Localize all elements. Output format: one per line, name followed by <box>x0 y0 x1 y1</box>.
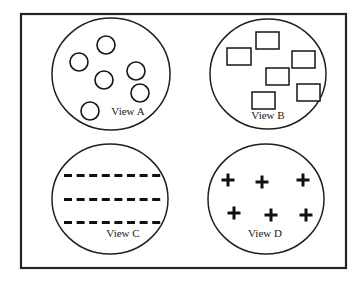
dash-marker-r1-8 <box>152 174 160 177</box>
dash-marker-r2-5 <box>114 198 122 201</box>
dash-marker-r1-3 <box>89 174 97 177</box>
view-b-label: View B <box>251 109 284 121</box>
dash-marker-r3-3 <box>89 221 97 224</box>
dash-marker-r3-2 <box>77 221 85 224</box>
dash-marker-r2-4 <box>102 198 110 201</box>
circle-marker-3 <box>127 62 145 80</box>
rectangle-marker-3 <box>292 51 315 68</box>
dash-marker-r2-3 <box>89 198 97 201</box>
circle-marker-2 <box>70 53 88 71</box>
dash-marker-r3-7 <box>140 221 148 224</box>
dash-marker-r2-8 <box>152 198 160 201</box>
dash-marker-r3-6 <box>127 221 135 224</box>
rectangle-marker-2 <box>227 48 251 65</box>
view-c-label: View C <box>106 227 139 239</box>
dash-marker-r3-8 <box>152 221 160 224</box>
rectangle-marker-6 <box>252 92 275 109</box>
dash-marker-r1-1 <box>64 174 72 177</box>
dash-marker-r2-7 <box>140 198 148 201</box>
figure-canvas: View A View B View C View D <box>0 0 362 284</box>
dash-marker-r2-2 <box>77 198 85 201</box>
dash-marker-r3-4 <box>102 221 110 224</box>
dash-marker-r1-5 <box>114 174 122 177</box>
rectangle-marker-1 <box>256 32 279 49</box>
dash-marker-r1-7 <box>140 174 148 177</box>
dash-marker-r2-6 <box>127 198 135 201</box>
dash-marker-r3-1 <box>64 221 72 224</box>
dash-marker-r1-4 <box>102 174 110 177</box>
circle-marker-4 <box>95 71 113 89</box>
circle-marker-6 <box>81 102 99 120</box>
rectangle-marker-5 <box>297 84 320 101</box>
four-view-diagram: View A View B View C View D <box>0 0 362 284</box>
dash-marker-r1-2 <box>77 174 85 177</box>
circle-marker-1 <box>97 36 115 54</box>
circle-marker-5 <box>131 84 149 102</box>
view-a-label: View A <box>111 105 144 117</box>
view-d-label: View D <box>248 227 282 239</box>
dash-marker-r3-5 <box>114 221 122 224</box>
dash-marker-r2-1 <box>64 198 72 201</box>
rectangle-marker-4 <box>266 68 289 85</box>
dash-marker-r1-6 <box>127 174 135 177</box>
